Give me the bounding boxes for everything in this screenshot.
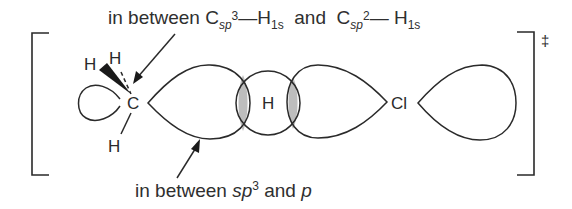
top-label-mid: and C [284,7,351,28]
top-label-prefix: in between C [108,7,219,28]
top-label-dash1: —H [238,7,271,28]
top-label-sup3: 2 [363,9,370,23]
arrow-top-line [137,34,175,78]
arrow-bottom-line [177,146,197,178]
left-bracket [32,33,49,175]
top-label-sub4: 1s [408,18,421,32]
bottom-label-p: p [301,180,312,201]
chlorine-lobe-left [287,65,387,138]
arrow-bottom-head [191,139,200,153]
bond-c-h-bottom [121,113,131,134]
carbon-back-lobe [79,85,121,120]
top-label-sub3: sp [350,18,363,32]
atom-carbon: C [127,95,139,112]
bottom-annotation: in between sp3 and p [135,179,312,202]
top-annotation: in between Csp3—H1s and Csp2— H1s [108,6,420,32]
right-bracket [517,32,534,175]
atom-chlorine: Cl [391,95,407,112]
atom-hydrogen-bottom: H [108,138,120,155]
bond-c-h-dashed [121,72,131,94]
transition-state-symbol: ‡ [541,33,549,48]
chlorine-lobe-right [418,65,516,140]
bottom-label-mid: and [259,180,301,201]
atom-hydrogen-dashed: H [109,50,121,67]
atom-hydrogen-wedge: H [84,56,96,73]
top-label-sub2: 1s [271,18,284,32]
bottom-label-sp: sp [232,180,252,201]
atom-hydrogen-center: H [262,95,274,112]
bottom-label-prefix: in between [135,180,232,201]
top-label-dash2: — H [370,7,408,28]
carbon-hybrid-lobe [148,65,250,139]
top-label-sub1: sp [219,18,232,32]
top-label-sup1: 3 [232,9,239,23]
bottom-label-sup: 3 [252,179,259,193]
